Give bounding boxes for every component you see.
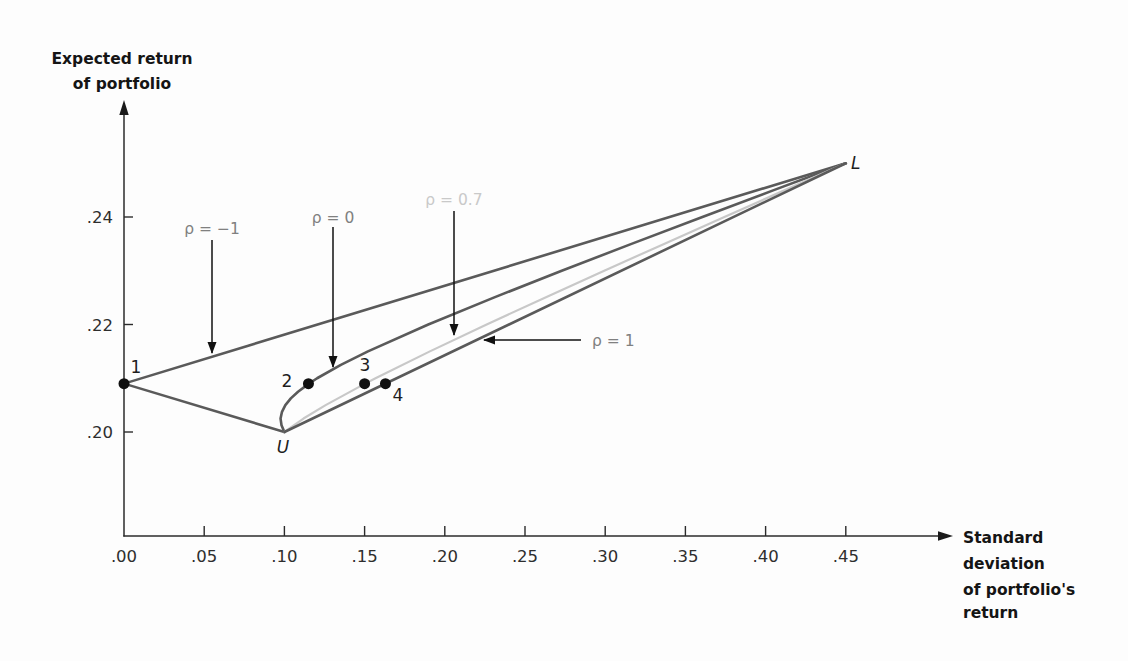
x-tick-label: .35 xyxy=(672,547,698,566)
chart: Expected return of portfolio .20.22.24 .… xyxy=(0,0,1128,661)
y-tick-label: .22 xyxy=(87,316,113,335)
x-axis-title: Standard deviation of portfolio's return xyxy=(963,529,1075,622)
point-marker-3 xyxy=(359,378,370,389)
x-tick-label: .45 xyxy=(833,547,859,566)
point-marker-4 xyxy=(380,378,391,389)
x-axis-title-line-4: return xyxy=(963,604,1018,622)
x-tick-label: .40 xyxy=(752,547,778,566)
x-axis-title-line-1: Standard xyxy=(963,529,1043,547)
x-tick-label: .00 xyxy=(111,547,137,566)
point-label-u: U xyxy=(277,437,290,457)
y-tick-label: .24 xyxy=(87,208,113,227)
y-ticks: .20.22.24 xyxy=(87,208,133,442)
point-label-3: 3 xyxy=(360,355,371,375)
annotation-rho-neg1-label: ρ = −1 xyxy=(184,220,240,238)
x-tick-label: .25 xyxy=(512,547,538,566)
x-axis-arrowhead-icon xyxy=(938,531,953,540)
annotation-rho-0-label: ρ = 0 xyxy=(312,209,355,227)
x-tick-label: .20 xyxy=(432,547,458,566)
x-axis-title-line-2: deviation xyxy=(963,555,1045,573)
x-ticks: .00.05.10.15.20.25.30.35.40.45 xyxy=(111,526,859,566)
y-axis-title-line-1: Expected return xyxy=(51,50,192,68)
y-axis-arrowhead-icon xyxy=(119,100,128,115)
point-label-l: L xyxy=(851,153,860,173)
annotation-rho-0-7-label: ρ = 0.7 xyxy=(425,191,482,209)
point-marker-1 xyxy=(119,378,130,389)
annotation-rho-1: ρ = 1 xyxy=(484,332,635,350)
x-axis-title-line-3: of portfolio's xyxy=(963,581,1075,599)
annotation-rho-0: ρ = 0 xyxy=(312,209,355,367)
series-group xyxy=(124,163,846,432)
annotation-rho-1-label: ρ = 1 xyxy=(592,332,635,350)
series-line-1 xyxy=(284,163,845,432)
point-label-1: 1 xyxy=(131,357,142,377)
x-tick-label: .15 xyxy=(351,547,377,566)
point-label-2: 2 xyxy=(282,371,293,391)
x-tick-label: .05 xyxy=(191,547,217,566)
annotation-rho-neg1: ρ = −1 xyxy=(184,220,240,353)
x-tick-label: .10 xyxy=(271,547,297,566)
annotation-rho-0-7: ρ = 0.7 xyxy=(425,191,482,335)
x-tick-label: .30 xyxy=(592,547,618,566)
point-label-4: 4 xyxy=(393,385,404,405)
y-tick-label: .20 xyxy=(87,423,113,442)
y-axis-title-line-2: of portfolio xyxy=(73,75,171,93)
point-markers xyxy=(119,378,391,389)
point-marker-2 xyxy=(303,378,314,389)
y-axis-title: Expected return of portfolio xyxy=(51,50,192,93)
